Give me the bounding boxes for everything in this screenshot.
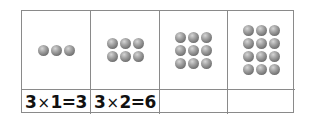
dot-icon (243, 64, 254, 75)
dot-icon (256, 25, 267, 36)
dot-icon (175, 45, 186, 56)
dot-icon (269, 51, 280, 62)
dot-icon (201, 45, 212, 56)
label-cell-4-empty (228, 90, 295, 114)
label-cell-2: 3×2=6 (91, 90, 160, 114)
dot-icon (175, 58, 186, 69)
dot-group-3 (38, 45, 75, 56)
dot-cell-4 (228, 11, 295, 90)
dot-icon (188, 45, 199, 56)
dot-icon (201, 58, 212, 69)
dot-icon (120, 51, 131, 62)
dot-icon (51, 45, 62, 56)
dot-icon (64, 45, 75, 56)
dot-icon (107, 51, 118, 62)
dot-icon (243, 51, 254, 62)
dot-icon (188, 32, 199, 43)
dot-icon (269, 25, 280, 36)
equation-label-2: 3×2=6 (94, 92, 156, 112)
equation-label-1: 3×1=3 (25, 92, 87, 112)
dot-icon (133, 38, 144, 49)
dot-icon (38, 45, 49, 56)
dot-group-6 (107, 38, 144, 62)
dot-icon (188, 58, 199, 69)
dot-icon (256, 51, 267, 62)
dot-icon (269, 38, 280, 49)
multiplication-table: 3×1=3 3×2=6 (21, 10, 294, 113)
dot-icon (269, 64, 280, 75)
dot-cell-2 (91, 11, 160, 90)
dot-icon (256, 38, 267, 49)
dot-icon (243, 38, 254, 49)
dot-icon (120, 38, 131, 49)
dot-icon (243, 25, 254, 36)
dot-icon (107, 38, 118, 49)
dot-group-9 (175, 32, 212, 69)
dot-icon (175, 32, 186, 43)
label-cell-1: 3×1=3 (22, 90, 91, 114)
dot-icon (256, 64, 267, 75)
dot-cell-3 (160, 11, 228, 90)
label-cell-3-empty (160, 90, 228, 114)
dot-cell-1 (22, 11, 91, 90)
dot-icon (133, 51, 144, 62)
dot-icon (201, 32, 212, 43)
dot-group-12 (243, 25, 280, 75)
